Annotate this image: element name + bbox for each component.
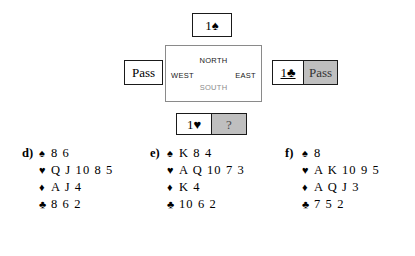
- diamond-icon: ♦: [39, 182, 50, 193]
- heart-icon: ♥: [302, 165, 313, 176]
- south-prompt-box[interactable]: ?: [211, 114, 246, 134]
- west-bid-box[interactable]: Pass: [124, 60, 163, 85]
- compass-north-label: NORTH: [166, 57, 261, 65]
- east-pass-label: Pass: [309, 66, 332, 79]
- hand-d-clubs-row: x) ♣ 8 6 2: [22, 197, 113, 214]
- north-bid-box[interactable]: 1♠: [192, 13, 232, 37]
- spade-icon: ♠: [167, 148, 178, 159]
- south-bid-group: 1♥ ?: [176, 113, 247, 135]
- heart-icon: ♥: [167, 165, 178, 176]
- compass-west-label: WEST: [171, 72, 194, 80]
- east-bid-group: 1♣ Pass: [272, 60, 338, 85]
- hand-d-diamonds-row: x) ♦ A J 4: [22, 180, 113, 197]
- west-bid-label: Pass: [132, 66, 155, 79]
- hand-d: d) ♠ 8 6 x) ♥ Q J 10 8 5 x) ♦ A J 4 x) ♣…: [22, 146, 113, 214]
- club-icon: ♣: [302, 199, 313, 210]
- hand-f-spades: 8: [313, 146, 321, 161]
- club-icon: ♣: [167, 199, 178, 210]
- east-bid-box[interactable]: 1♣: [273, 61, 303, 84]
- heart-icon: ♥: [39, 165, 50, 176]
- hand-f-clubs: 7 5 2: [313, 197, 345, 212]
- south-bid-label: 1♥: [187, 118, 201, 131]
- hand-e-hearts: A Q 10 7 3: [178, 163, 245, 178]
- hand-d-hearts-row: x) ♥ Q J 10 8 5: [22, 163, 113, 180]
- north-bid-label: 1♠: [205, 19, 218, 32]
- hands-row: d) ♠ 8 6 x) ♥ Q J 10 8 5 x) ♦ A J 4 x) ♣…: [0, 146, 415, 256]
- hand-f-hearts: A K 10 9 5: [313, 163, 380, 178]
- south-bid-box[interactable]: 1♥: [177, 114, 211, 134]
- hand-d-spades-row: d) ♠ 8 6: [22, 146, 113, 163]
- south-prompt-label: ?: [226, 118, 232, 131]
- hand-e-hearts-row: x) ♥ A Q 10 7 3: [150, 163, 245, 180]
- hand-d-diamonds: A J 4: [50, 180, 82, 195]
- hand-f-label: f): [285, 146, 302, 161]
- hand-f-diamonds: A Q J 3: [313, 180, 360, 195]
- compass-box: NORTH WEST EAST SOUTH: [165, 45, 262, 102]
- hand-f-hearts-row: x) ♥ A K 10 9 5: [285, 163, 380, 180]
- hand-e-clubs: 10 6 2: [178, 197, 217, 212]
- spade-icon: ♠: [39, 148, 50, 159]
- diamond-icon: ♦: [167, 182, 178, 193]
- hand-e: e) ♠ K 8 4 x) ♥ A Q 10 7 3 x) ♦ K 4 x) ♣…: [150, 146, 245, 214]
- bidding-diagram: 1♠ Pass 1♣ Pass 1♥ ? NORTH WEST EAST SOU…: [0, 0, 415, 140]
- hand-e-spades-row: e) ♠ K 8 4: [150, 146, 245, 163]
- hand-f: f) ♠ 8 x) ♥ A K 10 9 5 x) ♦ A Q J 3 x) ♣…: [285, 146, 380, 214]
- hand-d-hearts: Q J 10 8 5: [50, 163, 113, 178]
- hand-e-spades: K 8 4: [178, 146, 212, 161]
- hand-f-diamonds-row: x) ♦ A Q J 3: [285, 180, 380, 197]
- hand-d-clubs: 8 6 2: [50, 197, 82, 212]
- east-pass-box[interactable]: Pass: [303, 61, 337, 84]
- hand-d-label: d): [22, 146, 39, 161]
- compass-east-label: EAST: [235, 72, 256, 80]
- hand-e-clubs-row: x) ♣ 10 6 2: [150, 197, 245, 214]
- hand-e-diamonds-row: x) ♦ K 4: [150, 180, 245, 197]
- hand-f-spades-row: f) ♠ 8: [285, 146, 380, 163]
- spade-icon: ♠: [302, 148, 313, 159]
- hand-e-label: e): [150, 146, 167, 161]
- compass-south-label: SOUTH: [166, 84, 261, 92]
- hand-f-clubs-row: x) ♣ 7 5 2: [285, 197, 380, 214]
- club-icon: ♣: [39, 199, 50, 210]
- hand-d-spades: 8 6: [50, 146, 70, 161]
- diamond-icon: ♦: [302, 182, 313, 193]
- east-bid-label: 1♣: [281, 66, 296, 79]
- hand-e-diamonds: K 4: [178, 180, 201, 195]
